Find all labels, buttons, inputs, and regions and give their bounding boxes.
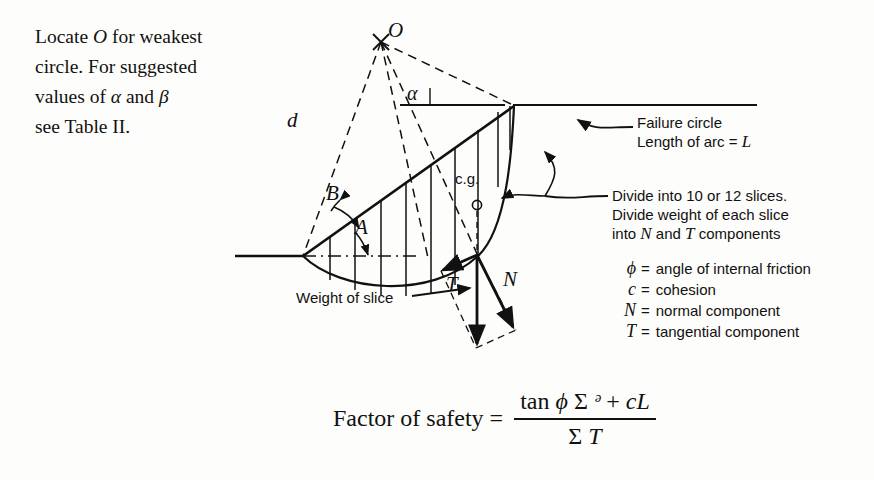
arc-length-label: Length of arc = L <box>637 132 751 151</box>
intro-line-3a: values of <box>35 86 111 107</box>
legend-symbol: N <box>616 300 636 321</box>
legend-row: c = cohesion <box>616 279 811 300</box>
formula-sigma-denominator: Σ <box>568 423 588 449</box>
failure-circle-annotation: Failure circle Length of arc = L <box>637 113 751 151</box>
formula-plus: + <box>600 388 626 414</box>
intro-line-4: see Table II. <box>35 116 130 137</box>
intro-symbol-beta: β <box>159 86 169 107</box>
label-force-N: N <box>503 267 517 292</box>
divide-line-3-mid: and <box>652 225 685 242</box>
legend-equals: = <box>641 321 650 342</box>
arc-length-symbol: L <box>742 132 751 151</box>
formula-numerator: tan ϕ Σ ᵊ + cL <box>514 388 656 418</box>
arc-length-text: Length of arc = <box>637 133 742 150</box>
formula-fraction: tan ϕ Σ ᵊ + cL Σ T <box>514 388 656 450</box>
legend-symbol: ϕ <box>616 258 636 279</box>
divide-line-3-pre: into <box>612 225 640 242</box>
radius-to-toe <box>303 42 381 256</box>
intro-line-2: circle. For suggested <box>35 56 197 77</box>
slices-leader-branch-upper <box>545 152 555 196</box>
label-angle-alpha: α <box>407 82 418 105</box>
label-radius-d: d <box>287 108 298 133</box>
intro-symbol-alpha: α <box>111 86 121 107</box>
label-angle-B: B <box>326 181 339 206</box>
formula-phi: ϕ <box>555 388 567 414</box>
legend-row: N = normal component <box>616 300 811 321</box>
divide-line-2: Divide weight of each slice <box>612 205 789 224</box>
radius-lines <box>303 42 513 258</box>
slices-leader-branch-lower <box>502 195 545 198</box>
divide-line-3: into N and T components <box>612 224 789 243</box>
intro-line-3b: and <box>121 86 159 107</box>
legend-text: cohesion <box>656 279 716 300</box>
factor-of-safety-formula: Factor of safety = tan ϕ Σ ᵊ + cL Σ T <box>333 388 656 450</box>
legend-text: tangential component <box>656 321 799 342</box>
intro-paragraph: Locate O for weakest circle. For suggest… <box>35 22 285 142</box>
label-angle-A: A <box>355 215 368 240</box>
weight-of-slice-annotation: Weight of slice <box>296 288 393 307</box>
divide-slices-annotation: Divide into 10 or 12 slices. Divide weig… <box>612 186 789 243</box>
slices-leader-main <box>545 196 608 198</box>
legend-row: ϕ = angle of internal friction <box>616 258 811 279</box>
failure-circle-leader <box>578 120 633 128</box>
formula-c: c <box>626 388 637 414</box>
legend-symbol: c <box>616 279 636 300</box>
radius-mid <box>381 42 428 258</box>
radius-to-cg-base <box>381 42 478 256</box>
cg-circle-marker <box>472 200 481 209</box>
legend-text: normal component <box>656 300 780 321</box>
failure-circle-label: Failure circle <box>637 113 751 132</box>
label-force-T: T <box>446 272 458 297</box>
formula-L: L <box>636 388 649 414</box>
center-point-marker <box>373 34 389 50</box>
symbol-legend: ϕ = angle of internal friction c = cohes… <box>616 258 811 342</box>
formula-T: T <box>588 423 601 449</box>
divide-symbol-N: N <box>640 224 651 243</box>
formula-tan: tan <box>520 388 555 414</box>
weight-of-slice-leader <box>412 288 470 296</box>
legend-equals: = <box>641 300 650 321</box>
legend-equals: = <box>641 258 650 279</box>
legend-row: T = tangential component <box>616 321 811 342</box>
label-center-of-gravity: c.g. <box>455 170 479 187</box>
legend-symbol: T <box>616 321 636 342</box>
legend-equals: = <box>641 279 650 300</box>
intro-line-1a: Locate <box>35 26 93 47</box>
formula-sigma-numerator: Σ <box>568 388 594 414</box>
formula-lead-text: Factor of safety = <box>333 405 503 432</box>
divide-symbol-T: T <box>685 224 694 243</box>
formula-denominator: Σ T <box>562 420 607 450</box>
intro-symbol-O: O <box>93 26 107 47</box>
divide-line-3-post: components <box>695 225 781 242</box>
divide-line-1: Divide into 10 or 12 slices. <box>612 186 789 205</box>
radius-to-crest <box>381 42 513 105</box>
label-center-O: O <box>388 18 403 43</box>
intro-line-1b: for weakest <box>107 26 202 47</box>
legend-text: angle of internal friction <box>656 258 811 279</box>
